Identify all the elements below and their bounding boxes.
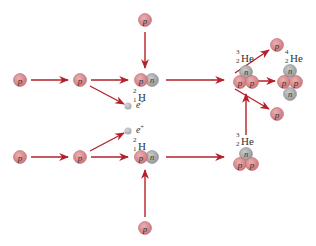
svg-text:p: p [138,76,144,86]
positron-bottom [125,128,132,135]
deuterium-nucleus-top: n p [135,74,159,87]
positron-charge: + [140,99,143,105]
svg-text:p: p [138,153,144,163]
mass-number: 3 [236,49,240,56]
proton: p [14,74,27,87]
arrow-p-to-positron-bottom [90,133,124,151]
svg-text:p: p [237,160,243,170]
svg-text:n: n [150,75,154,85]
svg-text:p: p [237,78,243,88]
deuterium-nucleus-bottom: n p [135,151,159,164]
proton: p [139,222,152,235]
proton: p [14,151,27,164]
output-proton: p [271,108,284,121]
label-helium3-top: 3 2 He [236,53,254,64]
helium3-nucleus-bottom: n p p [234,148,259,171]
svg-text:p: p [142,224,148,234]
svg-text:p: p [77,76,83,86]
positron-charge: + [140,124,143,130]
svg-text:n: n [244,149,248,159]
atomic-number: 2 [236,58,240,65]
svg-text:p: p [17,76,23,86]
helium4-nucleus: n n p p [278,65,303,101]
svg-text:p: p [249,78,255,88]
svg-text:p: p [142,16,148,26]
svg-text:p: p [274,110,280,120]
proton: p [139,14,152,27]
svg-text:n: n [150,152,154,162]
label-positron-top: e+ [136,99,144,110]
mass-number: 4 [285,49,289,56]
output-proton: p [271,39,284,52]
proton: p [74,151,87,164]
label-helium3-bottom: 3 2 He [236,136,254,147]
svg-text:p: p [293,78,299,88]
proton: p [74,74,87,87]
mass-number: 3 [236,132,240,139]
proton-proton-chain-diagram: p p p p p p p p n p n p [0,0,316,246]
mass-number: 2 [133,137,137,144]
label-deuterium-bottom: 2 1 H [133,141,146,152]
svg-text:n: n [288,66,292,76]
atomic-number: 1 [133,146,137,153]
svg-text:p: p [281,78,287,88]
positron-top [125,103,132,110]
arrow-p-to-positron-top [90,86,124,104]
svg-text:p: p [249,160,255,170]
svg-text:n: n [288,89,292,99]
svg-text:n: n [244,67,248,77]
label-helium4: 4 2 He [285,53,303,64]
svg-text:p: p [274,41,280,51]
svg-text:p: p [17,153,23,163]
svg-text:p: p [77,153,83,163]
arrow-to-output-proton-bottom [235,89,269,109]
mass-number: 2 [133,88,137,95]
helium3-nucleus-top: n p p [234,66,259,89]
label-positron-bottom: e+ [136,124,144,135]
atomic-number: 2 [236,141,240,148]
atomic-number: 2 [285,58,289,65]
